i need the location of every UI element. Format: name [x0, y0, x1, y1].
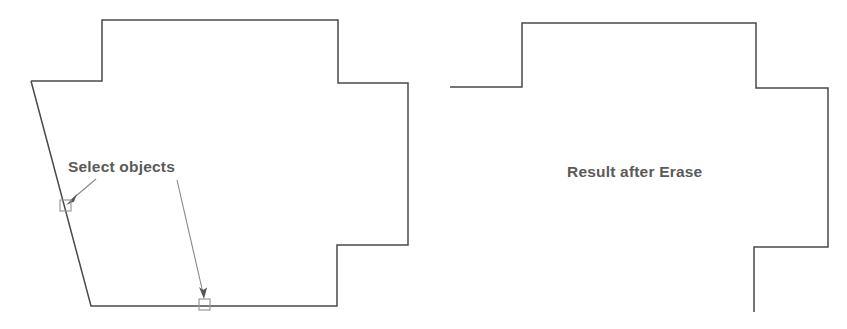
- result-after-erase-caption: Result after Erase: [567, 163, 703, 180]
- pickbox-bottom-edge[interactable]: [199, 299, 210, 310]
- select-objects-caption: Select objects: [68, 158, 175, 175]
- left-panel-group: Select objects: [31, 20, 408, 310]
- arrow-head-to-bottom-edge: [199, 287, 207, 299]
- erase-illustration-figure: Select objects Result after Erase: [0, 0, 847, 329]
- right-panel-group: Result after Erase: [450, 23, 828, 312]
- leader-line-to-bottom-edge: [177, 180, 203, 293]
- figure-canvas: Select objects Result after Erase: [0, 0, 847, 329]
